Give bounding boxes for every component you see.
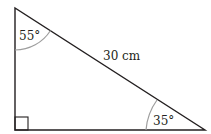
triangle-diagram: 55° 30 cm 35° (0, 0, 211, 134)
triangle (15, 8, 205, 130)
right-angle-marker (15, 117, 28, 130)
angle-label-top: 55° (19, 29, 40, 43)
hypotenuse-label: 30 cm (103, 49, 141, 63)
angle-label-bottom-right: 35° (153, 114, 174, 128)
